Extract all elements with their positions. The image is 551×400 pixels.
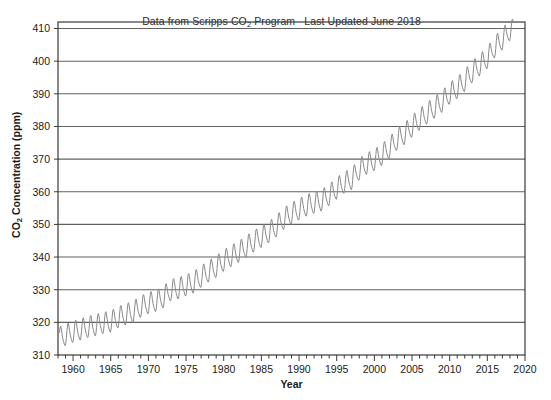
svg-text:1995: 1995 bbox=[325, 363, 349, 375]
svg-text:1975: 1975 bbox=[174, 363, 198, 375]
svg-text:1965: 1965 bbox=[99, 363, 123, 375]
svg-text:350: 350 bbox=[32, 218, 50, 230]
svg-text:1985: 1985 bbox=[250, 363, 274, 375]
svg-text:360: 360 bbox=[32, 186, 50, 198]
svg-text:400: 400 bbox=[32, 55, 50, 67]
svg-text:1970: 1970 bbox=[137, 363, 161, 375]
y-axis-ticks: 310320330340350360370380390400410 bbox=[32, 22, 58, 360]
svg-text:380: 380 bbox=[32, 120, 50, 132]
co2-keeling-curve-chart: Data from Scripps CO2 Program Last Updat… bbox=[0, 0, 551, 400]
svg-text:330: 330 bbox=[32, 284, 50, 296]
svg-text:2010: 2010 bbox=[438, 363, 462, 375]
x-axis-ticks: 1960196519701975198019851990199520002005… bbox=[58, 355, 537, 375]
plot-svg: 310320330340350360370380390400410 196019… bbox=[0, 0, 551, 400]
svg-text:2005: 2005 bbox=[400, 363, 424, 375]
svg-text:310: 310 bbox=[32, 349, 50, 361]
svg-text:1960: 1960 bbox=[61, 363, 85, 375]
svg-text:390: 390 bbox=[32, 88, 50, 100]
svg-text:410: 410 bbox=[32, 22, 50, 34]
svg-text:1990: 1990 bbox=[287, 363, 311, 375]
svg-text:340: 340 bbox=[32, 251, 50, 263]
grid-lines bbox=[58, 29, 525, 323]
svg-text:2000: 2000 bbox=[363, 363, 387, 375]
svg-text:370: 370 bbox=[32, 153, 50, 165]
svg-text:320: 320 bbox=[32, 316, 50, 328]
svg-text:2020: 2020 bbox=[513, 363, 537, 375]
svg-text:2015: 2015 bbox=[476, 363, 500, 375]
co2-data-line bbox=[60, 19, 514, 346]
svg-text:1980: 1980 bbox=[212, 363, 236, 375]
